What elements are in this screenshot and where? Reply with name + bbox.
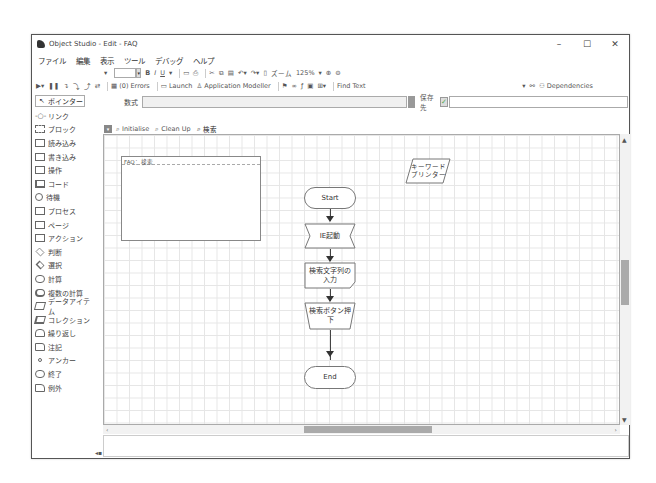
function-icon[interactable]: ƒ [301, 82, 303, 90]
dropdown-arrow-icon[interactable]: ▾ [522, 82, 525, 90]
store-in-input[interactable] [449, 96, 628, 108]
page-icon [35, 221, 45, 229]
navigate-node-ie[interactable]: IE起動 [304, 223, 356, 249]
zoom-value[interactable]: 125% [296, 69, 315, 77]
font-size-input[interactable] [114, 68, 136, 78]
navigate-node-press[interactable]: 検索ボタン押 下 [304, 302, 356, 330]
find-text-button[interactable]: Find Text [337, 82, 366, 90]
tool-process[interactable]: プロセス [34, 204, 96, 218]
tool-code[interactable]: コード [34, 177, 96, 191]
reset-icon[interactable]: ⇄ [95, 82, 100, 90]
tool-calculation[interactable]: 計算 [34, 272, 96, 286]
expression-edit-button[interactable] [408, 96, 415, 108]
app-modeller-button[interactable]: ♙Application Modeller [196, 82, 270, 90]
page-info-title: FAQ：検索 [122, 157, 260, 165]
store-in-check-icon[interactable]: ✓ [440, 97, 448, 107]
errors-button[interactable]: ▦(0) Errors [111, 82, 150, 90]
flowchart-canvas[interactable]: FAQ：検索 キーワード プリンター Start IE起動 検索文字列の 入力 … [103, 134, 620, 425]
menu-view[interactable]: 表示 [100, 55, 114, 66]
tool-read[interactable]: 読み込み [34, 136, 96, 150]
font-size-dropdown[interactable]: ▾ [136, 68, 141, 78]
bold-button[interactable]: B [145, 69, 150, 77]
tool-navigate[interactable]: 操作 [34, 163, 96, 177]
tool-end[interactable]: 終了 [34, 367, 96, 381]
tool-choice[interactable]: 選択 [34, 259, 96, 273]
menu-tools[interactable]: ツール [124, 55, 145, 66]
flag-icon[interactable]: ⚑ [282, 82, 288, 90]
tool-collection[interactable]: コレクション [34, 313, 96, 327]
tool-decision[interactable]: 判断 [34, 245, 96, 259]
navigate-icon [35, 166, 45, 174]
end-node[interactable]: End [304, 366, 356, 389]
collapse-icon[interactable]: ◂▪ [95, 449, 102, 456]
tool-exception[interactable]: 例外 [34, 381, 96, 395]
data-icon[interactable]: ▣ [307, 82, 313, 90]
scroll-up-icon[interactable]: ▲ [622, 136, 627, 143]
scroll-down-icon[interactable]: ▼ [622, 416, 627, 423]
tool-wait[interactable]: 待機 [34, 191, 96, 205]
vertical-scrollbar[interactable]: ▲ ▼ [620, 134, 630, 425]
grid-icon[interactable]: ⊞▾ [317, 82, 326, 90]
dependencies-button[interactable]: ⚇Dependencies [539, 82, 593, 90]
pointer-tool[interactable]: ↖ ポインター [35, 95, 85, 107]
tool-anchor[interactable]: アンカー [34, 354, 96, 368]
tool-note[interactable]: 注記 [34, 340, 96, 354]
loop-icon [35, 329, 45, 337]
close-button[interactable]: ✕ [601, 35, 629, 53]
page-info-box[interactable]: FAQ：検索 [121, 156, 261, 241]
binoculars-icon[interactable]: ⚯ [529, 82, 534, 90]
watch-icon[interactable]: ∞ [292, 82, 297, 90]
tool-block[interactable]: ブロック [34, 123, 96, 137]
expression-input[interactable] [142, 96, 407, 108]
menu-edit[interactable]: 編集 [76, 55, 90, 66]
tab-clean-up[interactable]: ⌕Clean Up [155, 125, 190, 133]
horizontal-scroll-thumb[interactable] [304, 426, 432, 433]
dropdown-arrow-icon[interactable]: ▾ [104, 69, 107, 77]
save-icon[interactable]: ▭ [183, 69, 189, 77]
color-dropdown[interactable]: ▾ [169, 69, 172, 77]
play-icon[interactable]: ▶▾ [36, 82, 44, 90]
block-icon [35, 125, 45, 133]
minimize-button[interactable]: – [545, 35, 573, 53]
paste-icon[interactable]: ▤ [228, 69, 234, 77]
tool-page[interactable]: ページ [34, 218, 96, 232]
copy-icon[interactable]: ⧉ [219, 69, 224, 77]
page-icon[interactable]: ▯ [263, 69, 267, 77]
step-over-icon[interactable]: ⤵ [73, 81, 80, 91]
zoom-out-icon[interactable]: ⊖ [335, 69, 340, 77]
zoom-dropdown[interactable]: ▾ [319, 69, 322, 77]
step-icon[interactable]: ↴ [63, 82, 68, 90]
scroll-left-icon[interactable]: ‹ [106, 426, 108, 433]
scroll-right-icon[interactable]: › [615, 426, 617, 433]
menu-file[interactable]: ファイル [38, 55, 66, 66]
underline-button[interactable]: U [160, 69, 165, 77]
tool-data-item[interactable]: データアイテム [34, 299, 96, 313]
redo-icon[interactable]: ↷▾ [251, 69, 260, 77]
start-node[interactable]: Start [304, 187, 356, 209]
menu-debug[interactable]: デバッグ [155, 55, 183, 66]
vertical-scroll-thumb[interactable] [621, 260, 629, 305]
data-item-keyword[interactable]: キーワード プリンター [405, 158, 451, 184]
horizontal-scrollbar[interactable]: ‹ › [103, 425, 620, 434]
tab-initialise[interactable]: ⌕Initialise [116, 125, 149, 133]
print-icon[interactable]: ⎙ [193, 69, 198, 77]
page-icon: ⌕ [197, 125, 201, 133]
tool-label: アンカー [48, 355, 76, 365]
cut-icon[interactable]: ✂ [209, 69, 214, 77]
menu-help[interactable]: ヘルプ [193, 55, 214, 66]
step-out-icon[interactable]: ⤴ [84, 81, 91, 91]
write-node-input[interactable]: 検索文字列の 入力 [304, 262, 356, 289]
tool-action[interactable]: アクション [34, 231, 96, 245]
pause-icon[interactable]: ❚❚ [48, 82, 59, 90]
tool-write[interactable]: 書き込み [34, 150, 96, 164]
tool-link[interactable]: -○-リンク [34, 109, 96, 123]
italic-button[interactable]: I [154, 69, 156, 77]
launch-button[interactable]: ▭Launch [161, 82, 193, 90]
tab-search[interactable]: ⌕検索 [197, 124, 217, 134]
zoom-in-icon[interactable]: ⊕ [326, 69, 331, 77]
tabs-dropdown[interactable]: ▾ [104, 125, 112, 133]
undo-icon[interactable]: ↶▾ [238, 69, 247, 77]
node-label: IE起動 [320, 232, 341, 241]
maximize-button[interactable]: ☐ [573, 35, 601, 53]
tool-loop[interactable]: 繰り返し [34, 327, 96, 341]
